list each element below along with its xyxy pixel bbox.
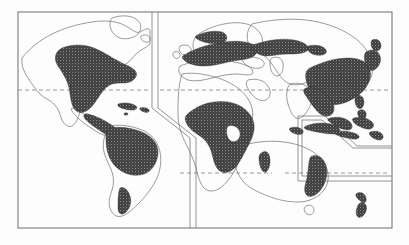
distribution-map-figure: World distribution map Interrupted-proje… [0, 0, 409, 245]
caribbean-islands-shading [124, 113, 128, 115]
world-map-svg [0, 0, 409, 245]
